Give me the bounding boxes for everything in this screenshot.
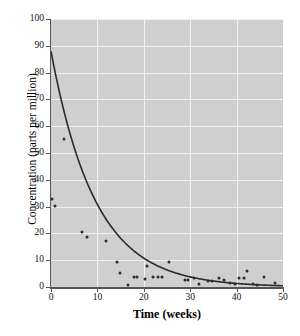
data-point bbox=[86, 235, 89, 238]
data-point bbox=[127, 284, 130, 287]
data-point bbox=[54, 205, 57, 208]
data-point bbox=[62, 137, 65, 140]
plot-area bbox=[51, 19, 283, 287]
y-axis-tick bbox=[46, 46, 50, 47]
y-axis-tick bbox=[46, 233, 50, 234]
chart-figure: 0102030405060708090100 01020304050 Conce… bbox=[0, 0, 300, 336]
data-point bbox=[211, 280, 214, 283]
data-point bbox=[51, 198, 53, 201]
data-point bbox=[207, 279, 210, 282]
data-point bbox=[136, 275, 139, 278]
x-axis-label: Time (weeks) bbox=[51, 307, 283, 322]
y-axis-tick bbox=[46, 153, 50, 154]
data-point bbox=[119, 271, 122, 274]
x-axis-tick-label: 40 bbox=[224, 292, 250, 302]
data-point bbox=[168, 261, 171, 264]
data-point bbox=[222, 279, 225, 282]
x-axis-tick-label: 0 bbox=[38, 292, 64, 302]
data-point bbox=[193, 276, 196, 279]
data-point bbox=[251, 283, 254, 286]
y-axis-tick bbox=[46, 287, 50, 288]
x-axis-tick-label: 10 bbox=[84, 292, 110, 302]
data-point bbox=[217, 276, 220, 279]
y-axis-tick bbox=[46, 180, 50, 181]
data-point bbox=[246, 269, 249, 272]
scatter-points bbox=[51, 19, 283, 287]
data-point bbox=[233, 282, 236, 285]
y-axis-tick bbox=[46, 260, 50, 261]
data-point bbox=[152, 275, 155, 278]
data-point bbox=[238, 277, 241, 280]
data-point bbox=[198, 282, 201, 285]
data-point bbox=[145, 264, 148, 267]
y-axis-tick-label: 100 bbox=[18, 13, 44, 23]
data-point bbox=[262, 276, 265, 279]
data-point bbox=[242, 277, 245, 280]
data-point bbox=[187, 279, 190, 282]
data-point bbox=[161, 275, 164, 278]
y-axis-tick-label: 0 bbox=[18, 281, 44, 291]
data-point bbox=[156, 275, 159, 278]
y-axis-label: Concentration (parts per million) bbox=[26, 29, 38, 269]
data-point bbox=[116, 260, 119, 263]
x-axis-line bbox=[50, 287, 284, 289]
data-point bbox=[132, 275, 135, 278]
data-point bbox=[183, 279, 186, 282]
x-axis-tick-label: 50 bbox=[270, 292, 296, 302]
data-point bbox=[229, 281, 232, 284]
y-axis-tick bbox=[46, 19, 50, 20]
data-point bbox=[274, 282, 277, 285]
x-axis-tick-label: 30 bbox=[177, 292, 203, 302]
data-point bbox=[143, 278, 146, 281]
data-point bbox=[80, 231, 83, 234]
data-point bbox=[105, 240, 108, 243]
y-axis-tick bbox=[46, 126, 50, 127]
y-axis-tick bbox=[46, 99, 50, 100]
y-axis-tick bbox=[46, 207, 50, 208]
x-axis-tick-label: 20 bbox=[131, 292, 157, 302]
data-point bbox=[256, 284, 259, 287]
y-axis-tick bbox=[46, 73, 50, 74]
